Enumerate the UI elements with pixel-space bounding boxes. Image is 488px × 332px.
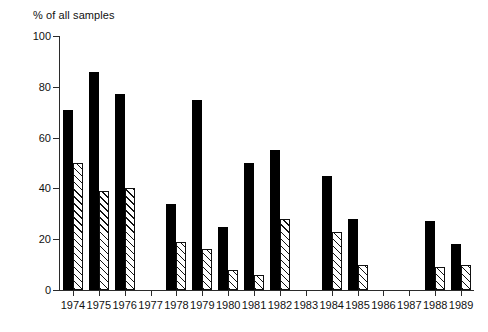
x-axis-tick-label: 1974 <box>60 299 86 311</box>
y-axis-tick-label: 80 <box>3 82 51 93</box>
y-axis-tick-label: 100 <box>3 31 51 42</box>
x-axis-tick <box>358 291 359 296</box>
y-axis-tick <box>53 239 59 240</box>
x-axis-tick-label: 1987 <box>396 299 422 311</box>
x-axis-tick <box>202 291 203 296</box>
x-axis-tick <box>151 291 152 296</box>
x-axis-tick-label: 1988 <box>422 299 448 311</box>
x-axis-tick <box>125 291 126 296</box>
bar-hatched-1989 <box>461 265 471 290</box>
bar-solid-1979 <box>192 100 202 291</box>
bar-solid-1975 <box>89 72 99 290</box>
x-axis-tick-label: 1985 <box>345 299 371 311</box>
bar-solid-1988 <box>425 221 435 290</box>
x-axis-tick-label: 1982 <box>267 299 293 311</box>
x-axis-tick <box>73 291 74 296</box>
x-axis-tick-label: 1980 <box>215 299 241 311</box>
bar-hatched-1984 <box>332 232 342 290</box>
bar-chart: % of all samples 020406080100 1974197519… <box>0 0 488 332</box>
plot-area <box>60 36 474 290</box>
y-axis-tick-label: 60 <box>3 133 51 144</box>
x-axis-tick-label: 1977 <box>138 299 164 311</box>
bar-solid-1982 <box>270 150 280 290</box>
x-axis-tick <box>332 291 333 296</box>
y-axis-tick-label: 20 <box>3 234 51 245</box>
x-axis-tick <box>383 291 384 296</box>
x-axis-tick <box>99 291 100 296</box>
x-axis-tick <box>176 291 177 296</box>
x-axis-line <box>59 290 474 291</box>
x-axis-tick <box>228 291 229 296</box>
x-axis-tick <box>306 291 307 296</box>
bar-hatched-1974 <box>73 163 83 290</box>
bar-solid-1981 <box>244 163 254 290</box>
x-axis-tick-label: 1983 <box>293 299 319 311</box>
bar-solid-1984 <box>322 176 332 290</box>
bar-solid-1974 <box>63 110 73 290</box>
bar-solid-1985 <box>348 219 358 290</box>
x-axis-tick-label: 1986 <box>371 299 397 311</box>
bar-hatched-1979 <box>202 249 212 290</box>
x-axis-tick-label: 1984 <box>319 299 345 311</box>
bar-solid-1976 <box>115 94 125 290</box>
x-axis-tick <box>280 291 281 296</box>
bar-hatched-1976 <box>125 188 135 290</box>
bar-solid-1989 <box>451 244 461 290</box>
x-axis-tick-label: 1989 <box>448 299 474 311</box>
x-axis-tick <box>435 291 436 296</box>
bar-hatched-1981 <box>254 275 264 290</box>
x-axis-tick-label: 1976 <box>112 299 138 311</box>
y-axis-tick <box>53 188 59 189</box>
x-axis-tick <box>409 291 410 296</box>
y-axis-tick-label: 0 <box>3 285 51 296</box>
y-axis-tick-label: 40 <box>3 183 51 194</box>
y-axis-tick <box>53 87 59 88</box>
bar-hatched-1982 <box>280 219 290 290</box>
bar-hatched-1985 <box>358 265 368 290</box>
x-axis-tick-label: 1975 <box>86 299 112 311</box>
bar-hatched-1978 <box>176 242 186 290</box>
x-axis-tick-label: 1981 <box>241 299 267 311</box>
bar-hatched-1980 <box>228 270 238 290</box>
bar-solid-1978 <box>166 204 176 290</box>
x-axis-tick-label: 1979 <box>189 299 215 311</box>
bar-hatched-1988 <box>435 267 445 290</box>
x-axis-tick <box>461 291 462 296</box>
y-axis-tick <box>53 138 59 139</box>
y-axis-tick <box>53 36 59 37</box>
x-axis-tick <box>254 291 255 296</box>
bar-solid-1980 <box>218 227 228 291</box>
y-axis-labels: 020406080100 <box>0 0 51 332</box>
x-axis-tick-label: 1978 <box>164 299 190 311</box>
bar-hatched-1975 <box>99 191 109 290</box>
